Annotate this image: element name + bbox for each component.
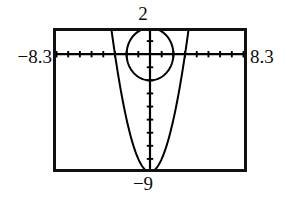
y-max-label: 2 (0, 4, 286, 23)
x-min-label: −8.3 (2, 47, 52, 66)
y-min-label: −9 (0, 174, 286, 193)
calculator-graph-figure: 2 −8.3 8.3 −9 (0, 0, 286, 200)
plot-canvas (53, 28, 247, 172)
axes-group (53, 28, 247, 172)
x-max-label: 8.3 (250, 47, 286, 66)
calculator-viewport-frame (53, 28, 247, 172)
